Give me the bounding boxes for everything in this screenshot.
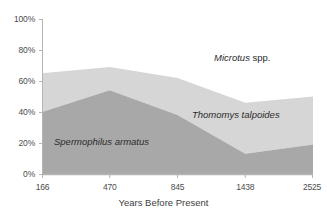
y-tick-label-20: 20% <box>9 139 35 148</box>
stacked-area-chart: 100% 80% 60% 40% 20% 0% 166 470 845 1438… <box>0 0 327 218</box>
y-tick-label-40: 40% <box>9 108 35 117</box>
series-label-microtus: Microtus spp. <box>214 53 271 63</box>
x-axis-title: Years Before Present <box>0 198 327 208</box>
y-tick-label-60: 60% <box>9 77 35 86</box>
series-label-microtus-species: spp. <box>250 52 271 63</box>
series-label-microtus-genus: Microtus <box>214 52 250 63</box>
y-tick-label-80: 80% <box>9 46 35 55</box>
x-tick-label-166: 166 <box>23 183 63 192</box>
x-tick-label-470: 470 <box>90 183 130 192</box>
y-tick-label-100: 100% <box>9 15 35 24</box>
y-tick-label-0: 0% <box>9 170 35 179</box>
x-tick-label-2525: 2525 <box>292 183 327 192</box>
x-tick-label-1438: 1438 <box>225 183 265 192</box>
series-label-spermophilus: Spermophilus armatus <box>54 137 149 147</box>
series-label-thomomys: Thomomys talpoides <box>192 110 280 120</box>
x-tick-label-845: 845 <box>158 183 198 192</box>
